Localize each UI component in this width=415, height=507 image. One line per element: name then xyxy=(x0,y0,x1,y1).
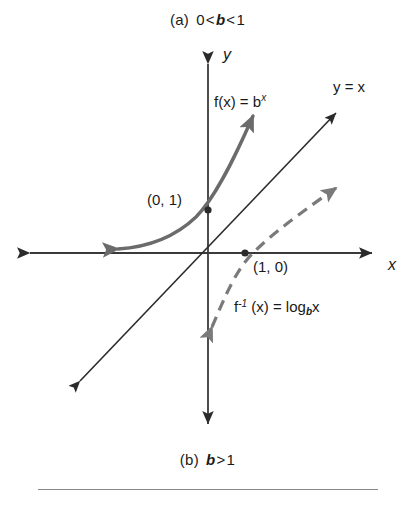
identity-equals: = xyxy=(345,78,354,95)
caption-below-figure: (b)b>1 xyxy=(0,451,415,468)
logarithmic-function-label: f-1 (x) = logbx xyxy=(234,298,320,317)
horizontal-divider xyxy=(38,489,378,490)
caption-b-prefix: (b) xyxy=(180,451,199,468)
x-axis-label: x xyxy=(388,256,396,274)
identity-x: x xyxy=(358,78,366,95)
exponential-curve xyxy=(118,116,253,249)
figure-container: (a)0<b<1 xyxy=(0,0,415,507)
identity-y: y xyxy=(333,78,341,95)
point-label-0-1: (0, 1) xyxy=(147,191,182,208)
logarithmic-equals: = xyxy=(273,298,282,315)
graph-canvas xyxy=(0,0,415,507)
exponential-function-label: f(x) = bx xyxy=(214,92,266,110)
point-dot-1-0 xyxy=(241,249,248,256)
exponential-base: b xyxy=(253,93,261,110)
logarithmic-log: log xyxy=(286,298,306,315)
identity-line-label: y = x xyxy=(333,78,365,95)
exponential-exponent: x xyxy=(261,92,266,103)
y-axis-label: y xyxy=(223,46,231,64)
logarithmic-inverse-exponent: -1 xyxy=(238,298,247,309)
logarithmic-variable: x xyxy=(312,298,320,315)
logarithmic-fn-arg: (x) xyxy=(251,298,269,315)
exponential-equals: = xyxy=(240,93,249,110)
caption-b-relation: > xyxy=(215,451,226,468)
caption-b-one: 1 xyxy=(227,451,236,468)
point-dot-0-1 xyxy=(204,206,211,213)
point-label-1-0: (1, 0) xyxy=(253,258,288,275)
exponential-fn-arg: (x) xyxy=(218,93,236,110)
